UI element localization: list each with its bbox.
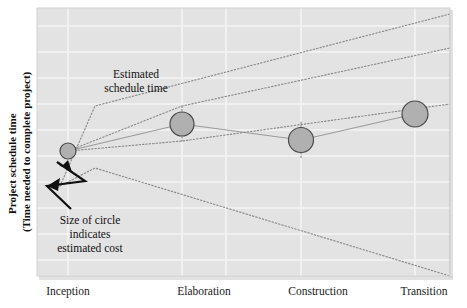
- annotation-circle-size-line1: Size of circle: [60, 214, 121, 226]
- plot-shadow-right: [449, 10, 453, 278]
- annotation-estimated-schedule-line1: Estimated: [113, 68, 159, 80]
- project-schedule-scatter-chart: Project schedule time (Time needed to co…: [0, 0, 467, 308]
- plot-shadow-bottom: [39, 276, 453, 280]
- y-axis-title-line2: (Time needed to complete project): [20, 71, 33, 232]
- annotation-circle-size-line2: indicates: [70, 228, 111, 240]
- data-point-elaboration: [170, 112, 194, 136]
- chart-figure: Project schedule time (Time needed to co…: [0, 0, 467, 308]
- y-axis-title-line1: Project schedule time: [6, 113, 18, 214]
- x-tick-label-elaboration: Elaboration: [177, 285, 231, 297]
- annotation-circle-size-line3: estimated cost: [57, 242, 123, 254]
- x-tick-label-inception: Inception: [46, 285, 90, 298]
- x-tick-label-construction: Construction: [288, 285, 348, 297]
- x-tick-label-transition: Transition: [401, 285, 448, 297]
- annotation-estimated-schedule-line2: schedule time: [104, 82, 168, 94]
- data-point-inception: [60, 143, 76, 159]
- data-point-transition: [402, 101, 428, 127]
- data-point-construction: [289, 128, 314, 153]
